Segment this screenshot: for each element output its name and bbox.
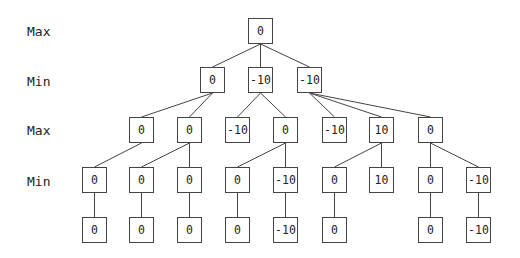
- tree-node: 0: [418, 117, 443, 143]
- tree-node: 10: [369, 167, 394, 193]
- tree-node: -10: [248, 67, 273, 93]
- node-value: 10: [375, 173, 389, 187]
- tree-node: 0: [82, 217, 107, 243]
- node-value: -10: [250, 73, 271, 87]
- tree-node: -10: [273, 217, 298, 243]
- node-value: -10: [275, 173, 296, 187]
- node-value: 0: [186, 123, 193, 137]
- tree-edge: [213, 44, 261, 67]
- node-value: 0: [138, 173, 145, 187]
- tree-node: -10: [466, 167, 491, 193]
- tree-node: 0: [418, 167, 443, 193]
- tree-node: 0: [273, 117, 298, 143]
- row-label-min: Min: [27, 74, 50, 89]
- node-value: -10: [275, 223, 296, 237]
- tree-node: 0: [177, 217, 202, 243]
- node-value: 0: [234, 173, 241, 187]
- node-value: 0: [186, 173, 193, 187]
- node-value: 0: [331, 223, 338, 237]
- tree-node: -10: [297, 67, 322, 93]
- node-value: 0: [427, 223, 434, 237]
- node-value: 0: [91, 223, 98, 237]
- node-value: 0: [138, 223, 145, 237]
- node-value: 0: [257, 24, 264, 38]
- tree-node: 0: [200, 67, 225, 93]
- tree-node: 0: [129, 167, 154, 193]
- tree-node: 0: [322, 167, 347, 193]
- tree-edge: [95, 143, 142, 167]
- node-value: -10: [468, 173, 489, 187]
- tree-node: 0: [248, 18, 273, 44]
- node-value: -10: [227, 123, 248, 137]
- node-value: -10: [324, 123, 345, 137]
- tree-node: -10: [225, 117, 250, 143]
- tree-edge: [335, 143, 382, 167]
- tree-edge: [261, 44, 310, 67]
- tree-edge: [261, 93, 286, 117]
- node-value: 10: [375, 123, 389, 137]
- tree-node: 0: [322, 217, 347, 243]
- tree-node: 10: [369, 117, 394, 143]
- node-value: 0: [91, 173, 98, 187]
- tree-edge: [142, 93, 213, 117]
- node-value: 0: [138, 123, 145, 137]
- tree-node: 0: [82, 167, 107, 193]
- node-value: 0: [234, 223, 241, 237]
- node-value: -10: [299, 73, 320, 87]
- tree-node: 0: [418, 217, 443, 243]
- tree-node: 0: [129, 117, 154, 143]
- tree-edge: [310, 93, 335, 117]
- row-label-max: Max: [27, 24, 50, 39]
- tree-node: -10: [273, 167, 298, 193]
- node-value: 0: [427, 173, 434, 187]
- tree-node: 0: [177, 167, 202, 193]
- node-value: 0: [282, 123, 289, 137]
- tree-edge: [238, 143, 286, 167]
- node-value: 0: [331, 173, 338, 187]
- tree-node: 0: [225, 217, 250, 243]
- tree-edge: [142, 143, 190, 167]
- tree-node: -10: [322, 117, 347, 143]
- tree-edge: [431, 143, 479, 167]
- tree-node: 0: [129, 217, 154, 243]
- tree-edge: [238, 93, 261, 117]
- node-value: -10: [468, 223, 489, 237]
- tree-node: 0: [177, 117, 202, 143]
- tree-node: -10: [466, 217, 491, 243]
- tree-node: 0: [225, 167, 250, 193]
- node-value: 0: [427, 123, 434, 137]
- node-value: 0: [209, 73, 216, 87]
- node-value: 0: [186, 223, 193, 237]
- row-label-max: Max: [27, 123, 50, 138]
- row-label-min: Min: [27, 174, 50, 189]
